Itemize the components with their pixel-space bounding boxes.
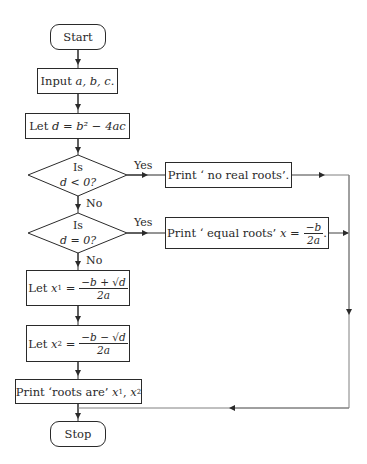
fraction-numerator: −b <box>304 221 324 234</box>
print-no-real-label: Print ‘ no real roots’. <box>168 168 290 182</box>
x-subscript: 2 <box>58 340 62 348</box>
decision-neg-text: Is d < 0? <box>48 160 108 190</box>
decision-zero-line2: d = 0? <box>60 234 96 247</box>
stop-terminator: Stop <box>50 421 106 447</box>
equals: = <box>66 337 76 351</box>
yes-label-2: Yes <box>134 216 152 229</box>
fraction-numerator: −b + √d <box>79 276 127 289</box>
compute-x2-box: Let x2 = −b − √d 2a <box>26 325 130 362</box>
yes-label-1: Yes <box>134 159 152 172</box>
x1-fraction: −b + √d 2a <box>79 276 127 301</box>
x-subscript: 1 <box>58 284 62 292</box>
let-label: Let <box>28 281 47 295</box>
print-equal-label: Print ‘ equal roots’ <box>167 226 276 240</box>
stop-label: Stop <box>65 427 92 441</box>
x2-fraction: −b − √d 2a <box>79 331 127 356</box>
start-terminator: Start <box>50 24 106 50</box>
decision-neg-line2: d < 0? <box>60 176 96 189</box>
input-label: Input <box>41 74 72 88</box>
print-equal-roots-box: Print ‘ equal roots’ x = −b 2a . <box>165 217 329 249</box>
fraction-denominator: 2a <box>307 234 320 246</box>
equals: = <box>66 281 76 295</box>
compute-x1-box: Let x1 = −b + √d 2a <box>26 270 130 306</box>
period: . <box>323 226 327 240</box>
compute-d-box: Let d = b² − 4ac <box>25 113 130 139</box>
let-label: Let <box>28 337 47 351</box>
start-label: Start <box>63 30 92 44</box>
print-roots-label: Print ‘roots are’ <box>16 385 109 399</box>
x2-subscript: 2 <box>137 388 141 396</box>
fraction-numerator: −b − √d <box>79 331 127 344</box>
input-box: Input a, b, c. <box>37 68 118 94</box>
let-label: Let <box>29 119 48 133</box>
decision-neg-line1: Is <box>48 160 108 175</box>
x1-subscript: 1 <box>119 388 123 396</box>
print-no-real-roots-box: Print ‘ no real roots’. <box>165 162 292 188</box>
d-expression: d = b² − 4ac <box>52 119 126 133</box>
equal-root-var: x = <box>280 226 300 240</box>
no-label-2: No <box>86 254 102 267</box>
equal-root-fraction: −b 2a <box>304 221 324 246</box>
input-vars: a, b, c. <box>76 74 115 88</box>
fraction-denominator: 2a <box>97 289 110 301</box>
decision-zero-line1: Is <box>48 218 108 233</box>
fraction-denominator: 2a <box>97 344 110 356</box>
print-roots-box: Print ‘roots are’ x1, x2 <box>15 379 142 404</box>
no-label-1: No <box>86 197 102 210</box>
decision-zero-text: Is d = 0? <box>48 218 108 248</box>
